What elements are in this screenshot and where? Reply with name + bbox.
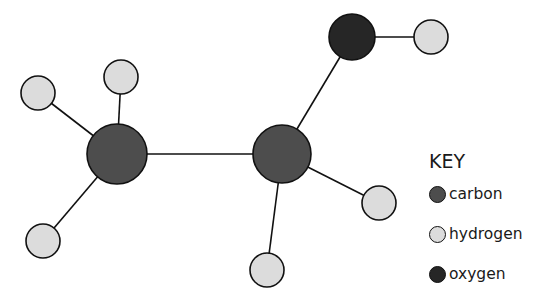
key-label-hydrogen: hydrogen xyxy=(449,225,523,243)
key-item-hydrogen: hydrogen xyxy=(429,214,523,254)
key-item-carbon: carbon xyxy=(429,174,523,214)
hydrogen-atom-H4 xyxy=(414,20,448,54)
hydrogen-atom-H3 xyxy=(26,224,60,258)
key-legend: KEY carbon hydrogen oxygen xyxy=(429,150,523,294)
carbon-atom-C2 xyxy=(253,125,311,183)
oxygen-atom-O1 xyxy=(329,14,375,60)
hydrogen-atom-H1 xyxy=(104,60,138,94)
carbon-atom-C1 xyxy=(87,124,147,184)
key-title: KEY xyxy=(429,150,523,172)
hydrogen-atom-H6 xyxy=(250,253,284,287)
hydrogen-swatch-icon xyxy=(429,226,446,243)
oxygen-swatch-icon xyxy=(429,266,446,283)
key-item-oxygen: oxygen xyxy=(429,254,523,294)
hydrogen-atom-H5 xyxy=(362,186,396,220)
key-label-carbon: carbon xyxy=(449,185,503,203)
carbon-swatch-icon xyxy=(429,186,446,203)
key-label-oxygen: oxygen xyxy=(449,265,506,283)
hydrogen-atom-H2 xyxy=(21,76,55,110)
